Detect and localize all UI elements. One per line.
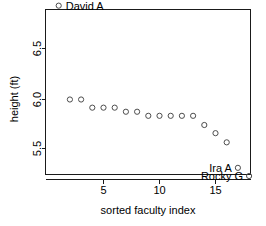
data-point: [191, 113, 196, 118]
data-point: [123, 109, 128, 114]
y-tick-label-6.5: 6.5: [31, 41, 43, 56]
x-axis-title: sorted faculty index: [101, 204, 196, 216]
data-point: [67, 97, 72, 102]
data-point: [224, 140, 229, 145]
data-point: [90, 105, 95, 110]
data-points: [56, 3, 252, 179]
data-point: [179, 113, 184, 118]
point-label-david: David A: [66, 0, 105, 12]
data-point: [146, 113, 151, 118]
scatter-plot-figure: 6.5 6.0 5.5 height (ft) 5 10 15 sorted f…: [0, 0, 266, 226]
data-point: [112, 105, 117, 110]
y-tick-label-6.0: 6.0: [31, 92, 43, 107]
plot-canvas: 6.5 6.0 5.5 height (ft) 5 10 15 sorted f…: [0, 0, 266, 226]
data-point: [56, 3, 61, 8]
data-point: [168, 113, 173, 118]
y-tick-label-5.5: 5.5: [31, 141, 43, 156]
data-point: [213, 131, 218, 136]
data-point: [202, 122, 207, 127]
data-point: [79, 97, 84, 102]
point-label-rocky: Rocky G: [201, 170, 243, 182]
y-axis-title: height (ft): [8, 76, 20, 122]
plot-frame: [46, 10, 251, 175]
y-axis: 6.5 6.0 5.5: [31, 41, 46, 156]
data-point: [135, 109, 140, 114]
data-point: [157, 113, 162, 118]
x-tick-label-15: 15: [209, 184, 221, 196]
data-point: [101, 105, 106, 110]
x-tick-label-10: 10: [153, 184, 165, 196]
x-tick-label-5: 5: [100, 184, 106, 196]
